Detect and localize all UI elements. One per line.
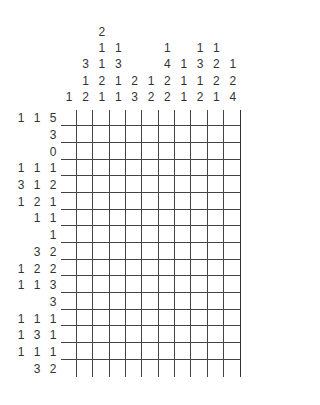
grid-cell[interactable]: [159, 276, 175, 293]
grid-cell[interactable]: [208, 176, 224, 193]
grid-cell[interactable]: [142, 143, 158, 160]
grid-cell[interactable]: [224, 293, 240, 310]
grid-cell[interactable]: [142, 193, 158, 210]
grid-cell[interactable]: [175, 143, 191, 160]
grid-cell[interactable]: [126, 126, 142, 143]
grid-cell[interactable]: [208, 126, 224, 143]
grid-cell[interactable]: [159, 293, 175, 310]
grid-cell[interactable]: [77, 343, 93, 360]
grid-cell[interactable]: [93, 260, 109, 277]
grid-cell[interactable]: [93, 176, 109, 193]
grid-cell[interactable]: [77, 126, 93, 143]
grid-cell[interactable]: [208, 260, 224, 277]
grid-cell[interactable]: [93, 243, 109, 260]
grid-cell[interactable]: [191, 243, 207, 260]
grid-cell[interactable]: [110, 260, 126, 277]
grid-cell[interactable]: [159, 126, 175, 143]
grid-cell[interactable]: [175, 126, 191, 143]
grid-cell[interactable]: [175, 243, 191, 260]
grid-cell[interactable]: [61, 176, 77, 193]
grid-cell[interactable]: [61, 193, 77, 210]
grid-cell[interactable]: [142, 293, 158, 310]
grid-cell[interactable]: [224, 160, 240, 177]
grid-cell[interactable]: [77, 110, 93, 127]
grid-cell[interactable]: [126, 210, 142, 227]
grid-cell[interactable]: [110, 126, 126, 143]
grid-cell[interactable]: [191, 276, 207, 293]
grid-cell[interactable]: [126, 110, 142, 127]
grid-cell[interactable]: [126, 326, 142, 343]
grid-cell[interactable]: [175, 110, 191, 127]
grid-cell[interactable]: [142, 126, 158, 143]
grid-cell[interactable]: [61, 226, 77, 243]
grid-cell[interactable]: [191, 310, 207, 327]
grid-cell[interactable]: [191, 360, 207, 377]
grid-cell[interactable]: [142, 176, 158, 193]
grid-cell[interactable]: [61, 210, 77, 227]
grid-cell[interactable]: [208, 276, 224, 293]
grid-cell[interactable]: [110, 110, 126, 127]
grid-cell[interactable]: [224, 210, 240, 227]
grid-cell[interactable]: [191, 160, 207, 177]
grid-cell[interactable]: [224, 360, 240, 377]
grid-cell[interactable]: [208, 293, 224, 310]
grid-cell[interactable]: [175, 360, 191, 377]
grid-cell[interactable]: [175, 160, 191, 177]
grid-cell[interactable]: [191, 293, 207, 310]
grid-cell[interactable]: [142, 210, 158, 227]
grid-cell[interactable]: [61, 343, 77, 360]
grid-cell[interactable]: [191, 126, 207, 143]
grid-cell[interactable]: [110, 326, 126, 343]
grid-cell[interactable]: [110, 226, 126, 243]
grid-cell[interactable]: [61, 243, 77, 260]
grid-cell[interactable]: [224, 243, 240, 260]
grid-cell[interactable]: [110, 276, 126, 293]
grid-cell[interactable]: [224, 326, 240, 343]
grid-cell[interactable]: [175, 176, 191, 193]
grid-cell[interactable]: [159, 143, 175, 160]
grid-cell[interactable]: [77, 360, 93, 377]
grid-cell[interactable]: [159, 360, 175, 377]
grid-cell[interactable]: [142, 160, 158, 177]
grid-cell[interactable]: [93, 360, 109, 377]
grid-cell[interactable]: [159, 326, 175, 343]
grid-cell[interactable]: [191, 326, 207, 343]
grid-cell[interactable]: [110, 343, 126, 360]
grid-cell[interactable]: [208, 160, 224, 177]
grid-cell[interactable]: [224, 276, 240, 293]
grid-cell[interactable]: [224, 343, 240, 360]
grid-cell[interactable]: [208, 143, 224, 160]
grid-cell[interactable]: [93, 226, 109, 243]
grid-cell[interactable]: [61, 143, 77, 160]
grid-cell[interactable]: [208, 360, 224, 377]
grid-cell[interactable]: [191, 193, 207, 210]
grid-cell[interactable]: [142, 326, 158, 343]
grid-cell[interactable]: [61, 310, 77, 327]
grid-cell[interactable]: [208, 310, 224, 327]
grid-cell[interactable]: [208, 210, 224, 227]
grid-cell[interactable]: [61, 126, 77, 143]
grid-cell[interactable]: [110, 160, 126, 177]
grid-cell[interactable]: [175, 326, 191, 343]
grid-cell[interactable]: [61, 260, 77, 277]
grid-cell[interactable]: [224, 226, 240, 243]
grid-cell[interactable]: [224, 260, 240, 277]
grid-cell[interactable]: [77, 210, 93, 227]
grid-cell[interactable]: [142, 110, 158, 127]
grid-cell[interactable]: [61, 160, 77, 177]
grid-cell[interactable]: [93, 343, 109, 360]
grid-cell[interactable]: [77, 276, 93, 293]
grid-cell[interactable]: [77, 310, 93, 327]
grid-cell[interactable]: [126, 343, 142, 360]
grid-cell[interactable]: [110, 193, 126, 210]
grid-cell[interactable]: [126, 143, 142, 160]
grid-cell[interactable]: [61, 293, 77, 310]
grid-cell[interactable]: [110, 310, 126, 327]
grid-cell[interactable]: [77, 243, 93, 260]
grid-cell[interactable]: [77, 193, 93, 210]
grid-cell[interactable]: [175, 293, 191, 310]
grid-cell[interactable]: [93, 193, 109, 210]
grid-cell[interactable]: [175, 193, 191, 210]
grid-cell[interactable]: [208, 243, 224, 260]
grid-cell[interactable]: [93, 326, 109, 343]
